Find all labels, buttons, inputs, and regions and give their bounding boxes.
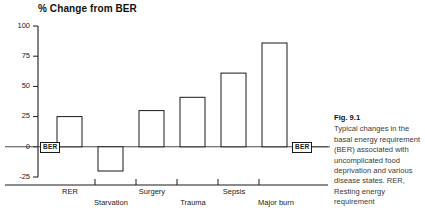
y-tick-label-100: 100 <box>4 21 30 30</box>
chart-plot-area: 100 75 50 25 0 -25 BER BER RER Starvatio… <box>0 18 330 200</box>
bar-trauma <box>180 97 205 147</box>
y-axis-ticks <box>33 26 38 177</box>
bar-sepsis <box>221 73 246 147</box>
x-label-major-burn: Major burn <box>248 198 304 207</box>
x-label-rer: RER <box>45 187 95 196</box>
x-label-trauma: Trauma <box>168 198 218 207</box>
x-axis-ticks <box>95 179 259 185</box>
page-title: % Change from BER <box>38 3 137 14</box>
bar-surgery <box>139 111 164 147</box>
ber-marker-right: BER <box>292 142 312 153</box>
y-tick-label-75: 75 <box>4 51 30 60</box>
figure-caption: Fig. 9.1 Typical changes in the basal en… <box>334 113 422 208</box>
bar-starvation <box>98 147 123 171</box>
y-tick-label-50: 50 <box>4 81 30 90</box>
figure-caption-text: Typical changes in the basal energy requ… <box>334 124 422 207</box>
y-tick-label-0: 0 <box>4 142 30 151</box>
bar-rer <box>57 117 82 147</box>
bar-chart-svg <box>0 18 330 200</box>
figure-caption-heading: Fig. 9.1 <box>334 113 422 123</box>
y-tick-label-minus25: -25 <box>4 172 30 181</box>
x-label-starvation: Starvation <box>85 198 137 207</box>
x-label-surgery: Surgery <box>127 187 177 196</box>
x-label-sepsis: Sepsis <box>209 187 259 196</box>
y-tick-label-25: 25 <box>4 111 30 120</box>
bar-major-burn <box>262 43 287 147</box>
figure-panel: % Change from BER <box>0 0 425 224</box>
ber-marker-left: BER <box>40 142 60 153</box>
